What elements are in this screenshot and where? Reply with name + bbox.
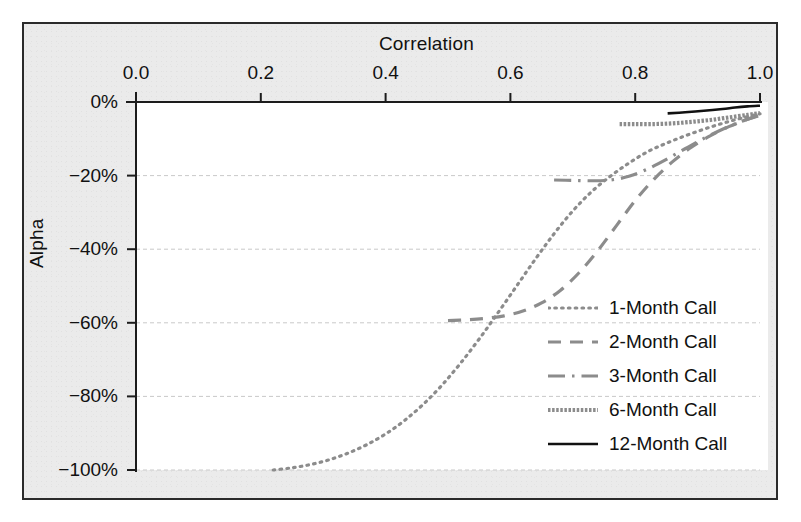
legend-line-swatch <box>548 403 598 417</box>
legend-label: 1-Month Call <box>609 297 717 319</box>
x-tick-label: 1.0 <box>747 62 773 84</box>
y-tick-label: −40% <box>8 238 128 260</box>
legend-item[interactable]: 6-Month Call <box>548 393 748 427</box>
legend-item[interactable]: 3-Month Call <box>548 359 748 393</box>
chart-figure: Correlation Alpha 0.00.20.40.60.81.0 0%−… <box>0 0 801 522</box>
legend-label: 2-Month Call <box>609 331 717 353</box>
legend-item[interactable]: 12-Month Call <box>548 427 748 461</box>
y-tick-label: −60% <box>8 312 128 334</box>
y-tick-label: −80% <box>8 385 128 407</box>
legend-label: 3-Month Call <box>609 365 717 387</box>
y-tick-label: −20% <box>8 165 128 187</box>
y-tick-label: −100% <box>8 459 128 481</box>
x-tick-label: 0.6 <box>497 62 523 84</box>
y-tick-labels: 0%−20%−40%−60%−80%−100% <box>0 0 128 522</box>
legend-line-swatch <box>548 335 598 349</box>
legend-line-swatch <box>548 437 598 451</box>
legend: 1-Month Call2-Month Call3-Month Call6-Mo… <box>548 291 748 461</box>
legend-label: 6-Month Call <box>609 399 717 421</box>
legend-item[interactable]: 2-Month Call <box>548 325 748 359</box>
legend-label: 12-Month Call <box>609 433 727 455</box>
legend-line-swatch <box>548 369 598 383</box>
legend-item[interactable]: 1-Month Call <box>548 291 748 325</box>
x-tick-label: 0.2 <box>248 62 274 84</box>
x-tick-label: 0.4 <box>372 62 398 84</box>
y-tick-label: 0% <box>8 91 128 113</box>
x-tick-label: 0.8 <box>622 62 648 84</box>
legend-line-swatch <box>548 301 598 315</box>
